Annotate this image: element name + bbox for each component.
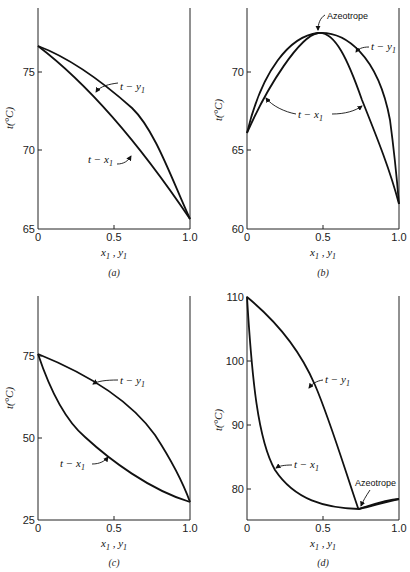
- leader-arrow: [361, 490, 370, 506]
- label-t-x1: t − x1: [60, 457, 85, 472]
- x-tick-label: 1.0: [182, 231, 197, 243]
- leader-arrow: [318, 15, 325, 30]
- azeotrope-label: Azeotrope: [355, 478, 396, 488]
- x-tick-label: 1.0: [391, 522, 406, 534]
- curve-t-x1: [38, 46, 190, 219]
- label-t-x1: t − x1: [88, 153, 113, 168]
- y-tick-label: 60: [232, 223, 244, 235]
- y-tick-label: 70: [232, 66, 244, 78]
- y-axis-label: t(°C): [3, 107, 16, 129]
- panel-c: 75 50 25 0 0.5 1.0 t(°C) x1 , y1 (c) t −…: [3, 296, 198, 569]
- curve-t-y1: [38, 46, 190, 219]
- azeotrope-label: Azeotrope: [327, 11, 368, 21]
- curve-t-x1: [247, 33, 399, 204]
- y-tick-label: 100: [226, 355, 244, 367]
- x-axis-label: x1 , y1: [309, 246, 336, 261]
- y-tick-label: 65: [232, 144, 244, 156]
- leader-arrow: [266, 98, 296, 114]
- y-tick-label: 50: [23, 432, 35, 444]
- x-axis-label: x1 , y1: [100, 246, 127, 261]
- label-t-y1: t − y1: [325, 373, 350, 388]
- x-tick-label: 0.5: [106, 522, 121, 534]
- label-t-x1: t − x1: [298, 108, 323, 123]
- y-tick-label: 25: [23, 514, 35, 526]
- x-tick-label: 0.5: [315, 231, 330, 243]
- figure-canvas: 75 70 65 0 0.5 1.0 t(°C) x1 , y1 (a) t −…: [0, 0, 410, 572]
- y-tick-label: 75: [23, 350, 35, 362]
- panel-caption: (a): [108, 267, 120, 279]
- label-t-y1: t − y1: [120, 374, 145, 389]
- panel-caption: (c): [108, 557, 120, 569]
- label-t-y1: t − y1: [120, 80, 145, 95]
- x-tick-label: 1.0: [182, 522, 197, 534]
- label-t-y1: t − y1: [371, 40, 396, 55]
- panel-a: 75 70 65 0 0.5 1.0 t(°C) x1 , y1 (a) t −…: [3, 8, 198, 279]
- panel-caption: (d): [317, 557, 329, 569]
- x-tick-label: 0: [35, 522, 41, 534]
- leader-arrow: [117, 156, 131, 164]
- label-t-x1: t − x1: [294, 458, 319, 473]
- x-tick-label: 0: [244, 522, 250, 534]
- curve-t-y1: [38, 354, 190, 502]
- y-axis-label: t(°C): [212, 409, 225, 431]
- y-axis-label: t(°C): [212, 99, 225, 121]
- x-tick-label: 0.5: [106, 231, 121, 243]
- x-axis-label: x1 , y1: [309, 537, 336, 552]
- curve-t-x1: [38, 354, 190, 502]
- curve-t-y1: [247, 33, 399, 204]
- y-tick-label: 80: [232, 483, 244, 495]
- y-tick-label: 75: [23, 66, 35, 78]
- leader-arrow: [332, 106, 362, 114]
- panel-b: 70 65 60 0 0.5 1.0 t(°C) x1 , y1 (b) Aze…: [212, 8, 407, 279]
- y-tick-label: 90: [232, 419, 244, 431]
- leader-arrow: [92, 457, 108, 464]
- x-tick-label: 0: [244, 231, 250, 243]
- y-tick-label: 110: [226, 291, 244, 303]
- x-axis-label: x1 , y1: [100, 537, 127, 552]
- panel-d: 110 100 90 80 0 0.5 1.0 t(°C) x1 , y1 (d…: [212, 291, 407, 569]
- leader-arrow: [276, 465, 292, 468]
- x-tick-label: 0: [35, 231, 41, 243]
- panel-caption: (b): [317, 267, 329, 279]
- x-tick-label: 1.0: [391, 231, 406, 243]
- x-tick-label: 0.5: [315, 522, 330, 534]
- y-tick-label: 65: [23, 223, 35, 235]
- y-axis-label: t(°C): [3, 387, 16, 409]
- y-tick-label: 70: [23, 144, 35, 156]
- leader-arrow: [356, 47, 369, 52]
